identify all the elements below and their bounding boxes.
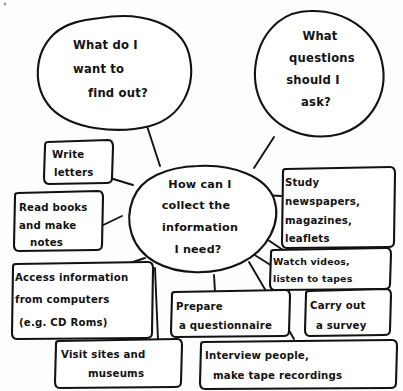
box-interview-people-shape [200, 340, 397, 389]
box-write-letters-line-1: Write [52, 149, 84, 160]
box-carry-out-survey-line-2: a survey [316, 320, 367, 331]
box-watch-videos-line-1: Watch videos, [273, 256, 350, 267]
box-read-books-line-1: Read books [19, 202, 88, 213]
box-read-books-line-3: notes [30, 237, 63, 248]
box-read-books[interactable]: Read books and make notes [14, 191, 103, 251]
connector-write-letters-to-center [110, 178, 133, 185]
connector-prepare-questionnaire-to-center [214, 275, 215, 292]
box-prepare-questionnaire-line-2: a questionnaire [179, 320, 272, 331]
box-access-information-line-1: Access information [15, 272, 128, 283]
box-study-newspapers-line-4: leaflets [285, 233, 330, 244]
box-visit-sites[interactable]: Visit sites and museums [55, 339, 182, 388]
bubble-find-out-line-2: want to [73, 62, 124, 76]
box-read-books-line-2: and make [19, 220, 76, 231]
box-study-newspapers[interactable]: Study newspapers, magazines, leaflets [282, 167, 395, 248]
box-carry-out-survey-line-1: Carry out [310, 300, 366, 311]
mind-map-diagram: How can I collect the information I need… [0, 0, 403, 391]
center-node-line-1: How can I [168, 178, 231, 191]
center-node-line-2: collect the [162, 199, 231, 212]
center-node[interactable]: How can I collect the information I need… [129, 166, 276, 272]
bubble-questions-line-4: ask? [301, 95, 331, 109]
box-write-letters[interactable]: Write letters [44, 140, 113, 184]
box-watch-videos[interactable]: Watch videos, listen to tapes [270, 248, 391, 290]
box-carry-out-survey[interactable]: Carry out a survey [305, 289, 391, 336]
bubble-find-out-line-3: find out? [88, 86, 148, 100]
box-access-information-line-2: from computers [15, 294, 109, 305]
bubble-questions-line-3: should I [286, 73, 340, 87]
connector-find-out-to-center [147, 126, 160, 166]
mind-map-canvas: How can I collect the information I need… [0, 0, 403, 391]
bubble-find-out[interactable]: What do I want to find out? [38, 16, 191, 130]
box-access-information[interactable]: Access information from computers (e.g. … [12, 262, 153, 339]
box-interview-people-line-1: Interview people, [205, 350, 309, 361]
box-study-newspapers-line-1: Study [285, 177, 320, 188]
box-prepare-questionnaire[interactable]: Prepare a questionnaire [171, 290, 290, 337]
box-study-newspapers-line-3: magazines, [285, 215, 352, 226]
bubble-questions-line-1: What [302, 29, 337, 43]
scan-speck [4, 3, 7, 6]
connector-visit-sites-to-center [155, 268, 158, 340]
box-interview-people-line-2: make tape recordings [213, 370, 342, 381]
bubble-questions-line-2: questions [289, 51, 355, 65]
connector-questions-to-center [254, 137, 274, 168]
box-watch-videos-line-2: listen to tapes [273, 273, 353, 284]
box-prepare-questionnaire-line-1: Prepare [176, 301, 223, 312]
bubble-questions[interactable]: What questions should I ask? [255, 11, 383, 136]
box-study-newspapers-line-2: newspapers, [285, 196, 360, 207]
center-node-line-3: information [162, 221, 238, 234]
box-visit-sites-line-1: Visit sites and [61, 349, 146, 360]
box-interview-people[interactable]: Interview people, make tape recordings [200, 340, 397, 389]
box-write-letters-line-2: letters [54, 167, 94, 178]
bubble-find-out-line-1: What do I [73, 38, 138, 52]
box-access-information-line-3: (e.g. CD Roms) [19, 317, 108, 328]
box-visit-sites-line-2: museums [88, 368, 144, 379]
box-visit-sites-shape [55, 339, 182, 388]
center-node-line-4: I need? [174, 243, 221, 256]
